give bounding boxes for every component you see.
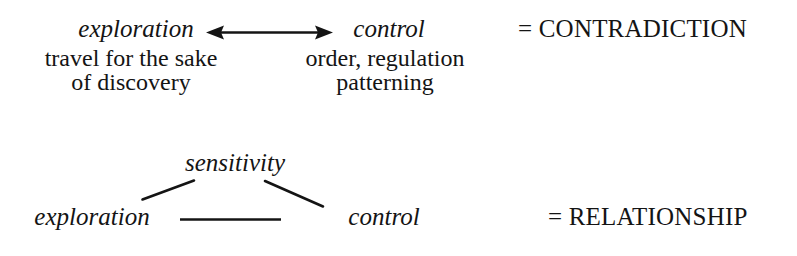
double-arrow-icon: [206, 26, 333, 40]
top-left-description: travel for the sake of discovery: [45, 46, 218, 95]
relationship-result-label: = RELATIONSHIP: [548, 204, 748, 230]
top-right-description-line1: order, regulation: [306, 46, 465, 70]
top-right-description-line2: patterning: [306, 70, 465, 94]
triad-right-connector: [265, 181, 323, 207]
contradiction-result-label: = CONTRADICTION: [518, 16, 747, 42]
triad-left-term: exploration: [34, 204, 149, 230]
top-left-description-line1: travel for the sake: [45, 46, 218, 70]
triad-right-term: control: [348, 204, 419, 230]
top-left-term: exploration: [78, 16, 193, 42]
triad-apex-term: sensitivity: [185, 150, 285, 176]
diagram-canvas: exploration travel for the sake of disco…: [0, 0, 797, 256]
top-left-description-line2: of discovery: [45, 70, 218, 94]
top-right-description: order, regulation patterning: [306, 46, 465, 95]
triad-left-connector: [143, 181, 195, 200]
top-right-term: control: [353, 16, 424, 42]
